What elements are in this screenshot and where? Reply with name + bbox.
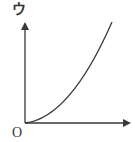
graph-diagram (0, 0, 135, 142)
curve (25, 22, 112, 123)
y-axis-label: ウ (12, 2, 26, 16)
origin-label: O (12, 126, 22, 140)
